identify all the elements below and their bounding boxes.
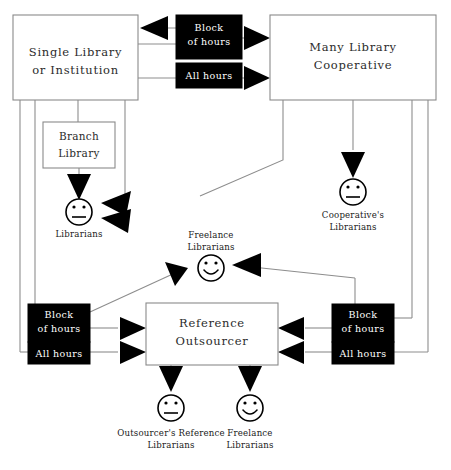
arrowhead-to-outsourcers-reference-librarians bbox=[159, 366, 183, 392]
arrowhead-into-coop-allhours bbox=[244, 66, 270, 90]
arrowhead-into-outsourcer-left-allhours bbox=[120, 341, 146, 364]
smiley-face-eye-left-icon bbox=[243, 401, 246, 404]
black-box-all-hours-left[interactable]: All hours bbox=[28, 342, 90, 364]
actor-freelance-librarians-top[interactable]: Freelance Librarians bbox=[187, 230, 234, 281]
arrowhead-into-single-library bbox=[140, 16, 168, 40]
single-library-label-line1: Single Library bbox=[29, 45, 122, 59]
block-left-label-line1: Block bbox=[45, 309, 74, 320]
smiley-face-eye-right-icon bbox=[214, 261, 217, 264]
branch-library-label-line1: Branch bbox=[59, 130, 99, 142]
outsourcers-reference-librarians-caption-line1: Outsourcer's Reference bbox=[117, 428, 225, 438]
block-top-label-line2: of hours bbox=[188, 36, 231, 47]
neutral-face-eye-left-icon bbox=[346, 185, 349, 188]
actor-cooperatives-librarians[interactable]: Cooperative's Librarians bbox=[322, 179, 384, 232]
cooperatives-librarians-caption-line2: Librarians bbox=[329, 222, 376, 232]
flow-diagram: Single Library or Institution Many Libra… bbox=[0, 0, 451, 470]
cooperatives-librarians-caption-line1: Cooperative's bbox=[322, 210, 384, 220]
coop-label-line2: Cooperative bbox=[314, 58, 392, 72]
black-box-all-hours-top[interactable]: All hours bbox=[176, 63, 242, 88]
branch-library-label-line2: Library bbox=[58, 147, 99, 159]
box-reference-outsourcer[interactable]: Reference Outsourcer bbox=[146, 303, 278, 365]
allhours-right-label: All hours bbox=[339, 348, 387, 359]
librarians-caption: Librarians bbox=[55, 229, 102, 239]
arrowhead-to-freelance-librarians-bottom bbox=[238, 366, 262, 392]
arrowhead-into-freelance-from-left bbox=[165, 262, 188, 286]
actor-librarians[interactable]: Librarians bbox=[55, 199, 102, 239]
outsourcers-reference-librarians-caption-line2: Librarians bbox=[147, 440, 194, 450]
diagram-canvas: Single Library or Institution Many Libra… bbox=[0, 0, 451, 470]
smiley-face-eye-left-icon bbox=[204, 261, 207, 264]
box-branch-library[interactable]: Branch Library bbox=[43, 122, 115, 168]
neutral-face-eye-left-icon bbox=[164, 401, 167, 404]
arrowhead-into-freelance-from-right bbox=[232, 253, 261, 277]
arrowhead-to-cooperatives-librarians bbox=[341, 152, 365, 178]
allhours-left-label: All hours bbox=[35, 348, 83, 359]
line-coop-diagonal-to-librarians bbox=[200, 100, 283, 196]
outsourcer-label-line2: Outsourcer bbox=[176, 334, 249, 348]
freelance-bottom-caption-line2: Librarians bbox=[226, 440, 273, 450]
arrowhead-branch-to-librarians bbox=[67, 174, 91, 200]
actor-freelance-librarians-bottom[interactable]: Freelance Librarians bbox=[226, 395, 273, 450]
actor-outsourcers-reference-librarians[interactable]: Outsourcer's Reference Librarians bbox=[117, 395, 225, 450]
arrowhead-into-outsourcer-right-block bbox=[278, 317, 304, 340]
black-box-all-hours-right[interactable]: All hours bbox=[332, 342, 394, 364]
arrowhead-into-librarians-lower bbox=[101, 209, 131, 233]
neutral-face-eye-right-icon bbox=[356, 185, 359, 188]
single-library-label-line2: or Institution bbox=[32, 63, 119, 77]
arrowhead-into-coop-block bbox=[244, 26, 270, 50]
box-many-library-cooperative[interactable]: Many Library Cooperative bbox=[270, 15, 436, 100]
arrowhead-into-outsourcer-right-allhours bbox=[278, 341, 304, 364]
neutral-face-eye-left-icon bbox=[72, 205, 75, 208]
freelance-bottom-caption-line1: Freelance bbox=[227, 428, 272, 438]
block-right-label-line1: Block bbox=[349, 309, 378, 320]
smiley-face-eye-right-icon bbox=[253, 401, 256, 404]
neutral-face-eye-right-icon bbox=[174, 401, 177, 404]
black-box-block-of-hours-right[interactable]: Block of hours bbox=[332, 304, 394, 342]
block-top-label-line1: Block bbox=[195, 22, 224, 33]
freelance-top-caption-line2: Librarians bbox=[187, 242, 234, 252]
outsourcer-label-line1: Reference bbox=[179, 316, 245, 330]
coop-label-line1: Many Library bbox=[309, 40, 397, 54]
neutral-face-eye-right-icon bbox=[82, 205, 85, 208]
black-box-block-of-hours-top[interactable]: Block of hours bbox=[176, 15, 242, 59]
block-right-label-line2: of hours bbox=[342, 323, 385, 334]
black-box-block-of-hours-left[interactable]: Block of hours bbox=[28, 304, 90, 342]
allhours-top-label: All hours bbox=[185, 70, 233, 81]
arrowhead-into-outsourcer-left-block bbox=[120, 317, 146, 340]
block-left-label-line2: of hours bbox=[38, 323, 81, 334]
box-single-library[interactable]: Single Library or Institution bbox=[13, 15, 138, 100]
freelance-top-caption-line1: Freelance bbox=[188, 230, 233, 240]
